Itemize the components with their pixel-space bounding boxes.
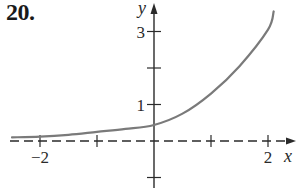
y-axis-arrow-icon xyxy=(151,3,158,14)
y-axis-label: y xyxy=(136,0,146,18)
axes xyxy=(10,3,296,188)
x-tick-label: 2 xyxy=(264,148,273,167)
graph-figure: 20. −2213xy xyxy=(0,0,297,188)
axis-labels: −2213xy xyxy=(31,0,292,167)
y-tick-label: 3 xyxy=(137,23,146,42)
x-axis-arrow-icon xyxy=(286,138,296,145)
y-tick-label: 1 xyxy=(137,96,146,115)
x-tick-label: −2 xyxy=(31,148,49,167)
problem-number: 20. xyxy=(6,0,35,26)
plot-area: −2213xy xyxy=(0,0,297,188)
x-axis-label: x xyxy=(283,146,292,166)
